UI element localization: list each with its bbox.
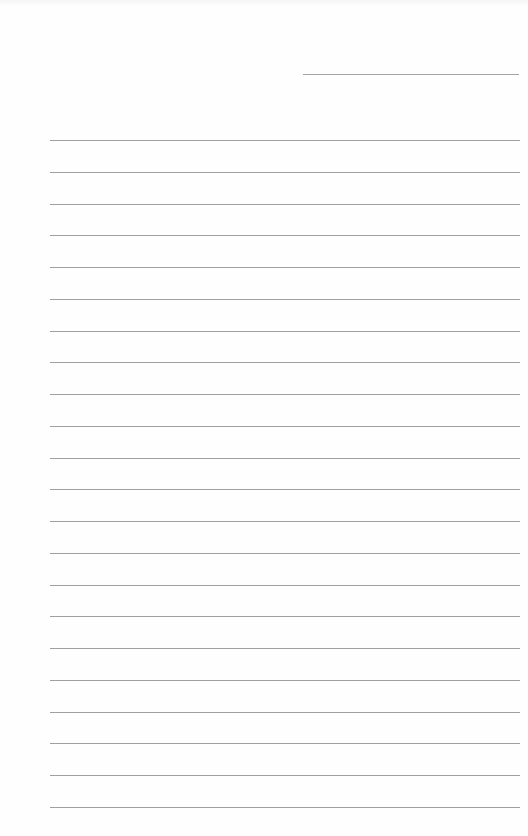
ruled-line xyxy=(50,775,520,776)
ruled-line xyxy=(50,140,520,141)
ruled-line xyxy=(50,267,520,268)
ruled-line xyxy=(50,299,520,300)
ruled-line xyxy=(50,172,520,173)
ruled-line xyxy=(50,712,520,713)
ruled-line xyxy=(50,585,520,586)
ruled-line xyxy=(50,235,520,236)
ruled-line xyxy=(50,648,520,649)
ruled-line xyxy=(50,807,520,808)
ruled-line xyxy=(50,553,520,554)
lined-paper-page xyxy=(0,0,528,836)
ruled-line xyxy=(50,616,520,617)
ruled-line xyxy=(50,362,520,363)
ruled-line xyxy=(50,331,520,332)
ruled-lines xyxy=(50,0,520,836)
ruled-line xyxy=(50,204,520,205)
ruled-line xyxy=(50,458,520,459)
ruled-line xyxy=(50,680,520,681)
ruled-line xyxy=(50,489,520,490)
ruled-line xyxy=(50,394,520,395)
ruled-line xyxy=(50,743,520,744)
ruled-line xyxy=(50,521,520,522)
ruled-line xyxy=(50,426,520,427)
